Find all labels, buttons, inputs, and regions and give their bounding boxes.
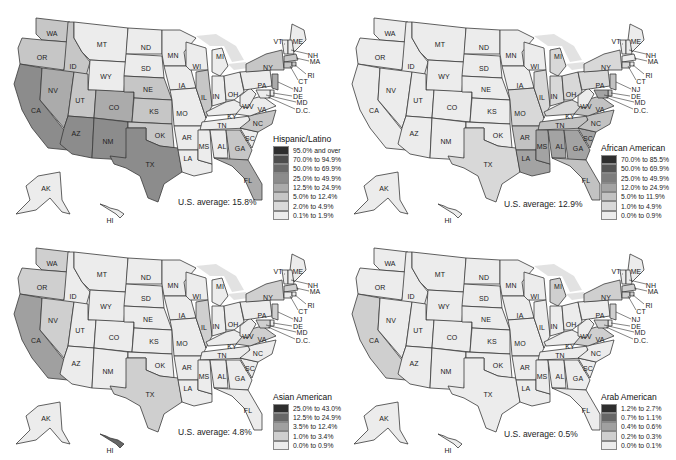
state-label-hi: HI — [106, 217, 113, 224]
state-label-ut: UT — [413, 97, 423, 104]
legend: Asian American25.0% to 43.0%12.5% to 24.… — [273, 392, 341, 450]
state-label-ny: NY — [601, 64, 611, 71]
state-ak — [16, 172, 70, 214]
leader-line-ct — [628, 296, 636, 310]
state-label-al: AL — [556, 373, 565, 380]
leader-line-ri — [295, 295, 306, 304]
legend-item-label: 12.5% to 24.9% — [293, 414, 341, 421]
legend-item: 5.0% to 12.4% — [273, 192, 341, 201]
state-label-id: ID — [69, 293, 76, 300]
state-label-id: ID — [69, 63, 76, 70]
state-label-fl: FL — [244, 407, 252, 414]
legend-item-label: 25.0% to 49.9% — [621, 175, 669, 182]
state-label-il: IL — [539, 324, 545, 331]
legend-swatch — [273, 201, 289, 210]
state-label-mn: MN — [505, 282, 516, 289]
state-label-al: AL — [218, 373, 227, 380]
legend-item-label: 70.0% to 94.9% — [293, 156, 341, 163]
state-label-ne: NE — [481, 86, 491, 93]
state-label-ak: AK — [41, 185, 51, 192]
state-fl — [552, 158, 600, 200]
state-label-ri: RI — [645, 302, 652, 309]
state-label-nd: ND — [141, 44, 151, 51]
legend-item-label: 70.0% to 85.5% — [621, 156, 669, 163]
state-label-sd: SD — [141, 65, 151, 72]
us-average-label: U.S. average: 15.8% — [178, 197, 256, 207]
state-label-pa: PA — [595, 82, 604, 89]
leader-line-nj — [616, 82, 631, 89]
state-label-dc: D.C. — [634, 337, 648, 344]
legend-swatch — [273, 404, 289, 413]
leader-line-de — [273, 93, 292, 96]
state-label-ks: KS — [149, 108, 159, 115]
state-label-ky: KY — [227, 343, 237, 350]
leader-line-nj — [278, 82, 293, 89]
legend-item: 70.0% to 85.5% — [601, 155, 669, 164]
state-label-oh: OH — [228, 321, 239, 328]
state-label-ct: CT — [298, 78, 308, 85]
state-label-nv: NV — [48, 87, 58, 94]
state-label-mt: MT — [97, 41, 107, 48]
state-label-sc: SC — [583, 135, 593, 142]
legend-item-label: 0.0% to 0.9% — [621, 212, 661, 219]
state-vt — [282, 270, 288, 284]
state-in — [550, 306, 564, 336]
state-label-ar: AR — [182, 364, 192, 371]
legend-swatch — [601, 173, 617, 182]
state-label-al: AL — [218, 143, 227, 150]
state-label-mt: MT — [97, 271, 107, 278]
legend-swatch — [601, 183, 617, 192]
state-nj — [610, 74, 616, 90]
state-nj — [272, 304, 278, 320]
legend-swatch — [273, 441, 289, 450]
legend-item: 0.4% to 0.6% — [601, 422, 661, 431]
state-label-nv: NV — [386, 87, 396, 94]
state-label-tn: TN — [217, 122, 227, 129]
state-label-or: OR — [375, 284, 386, 291]
state-label-mt: MT — [435, 271, 445, 278]
state-label-ma: MA — [648, 288, 659, 295]
state-label-va: VA — [257, 106, 266, 113]
state-label-mi: MI — [554, 53, 562, 60]
state-label-id: ID — [407, 293, 414, 300]
leader-line-nj — [278, 312, 293, 319]
state-label-az: AZ — [71, 360, 80, 367]
legend-item: 1.0% to 4.9% — [601, 201, 669, 210]
legend-item-label: 0.4% to 0.6% — [621, 423, 661, 430]
state-vt — [282, 40, 288, 54]
state-label-ms: MS — [537, 373, 548, 380]
state-fl — [214, 158, 262, 200]
state-label-ar: AR — [520, 134, 530, 141]
state-label-tn: TN — [217, 352, 227, 359]
state-label-ga: GA — [573, 375, 583, 382]
legend-item-label: 0.0% to 0.9% — [293, 442, 333, 449]
state-label-ca: CA — [31, 107, 41, 114]
state-label-or: OR — [375, 54, 386, 61]
state-label-ks: KS — [487, 108, 497, 115]
state-label-md: MD — [296, 99, 307, 106]
state-label-ok: OK — [493, 132, 503, 139]
state-label-tx: TX — [483, 391, 492, 398]
state-label-ca: CA — [31, 337, 41, 344]
state-label-nc: NC — [253, 350, 263, 357]
state-label-wa: WA — [46, 30, 57, 37]
state-label-ar: AR — [182, 134, 192, 141]
state-label-ny: NY — [263, 64, 273, 71]
legend: Arab American1.2% to 2.7%0.7% to 1.1%0.4… — [601, 392, 661, 450]
legend-title: Hispanic/Latino — [273, 134, 341, 144]
state-label-fl: FL — [582, 177, 590, 184]
state-label-mo: MO — [514, 110, 525, 117]
state-label-me: ME — [293, 38, 304, 45]
legend-item-label: 0.2% to 0.3% — [621, 433, 661, 440]
state-label-ky: KY — [227, 113, 237, 120]
legend-swatch — [601, 164, 617, 173]
state-label-in: IN — [550, 323, 557, 330]
state-label-or: OR — [37, 284, 48, 291]
leader-line-ct — [290, 66, 298, 80]
legend-swatch — [273, 413, 289, 422]
state-label-wv: WV — [242, 333, 253, 340]
state-label-ms: MS — [199, 373, 210, 380]
state-label-la: LA — [184, 385, 193, 392]
state-label-mn: MN — [167, 282, 178, 289]
state-label-wa: WA — [384, 30, 395, 37]
